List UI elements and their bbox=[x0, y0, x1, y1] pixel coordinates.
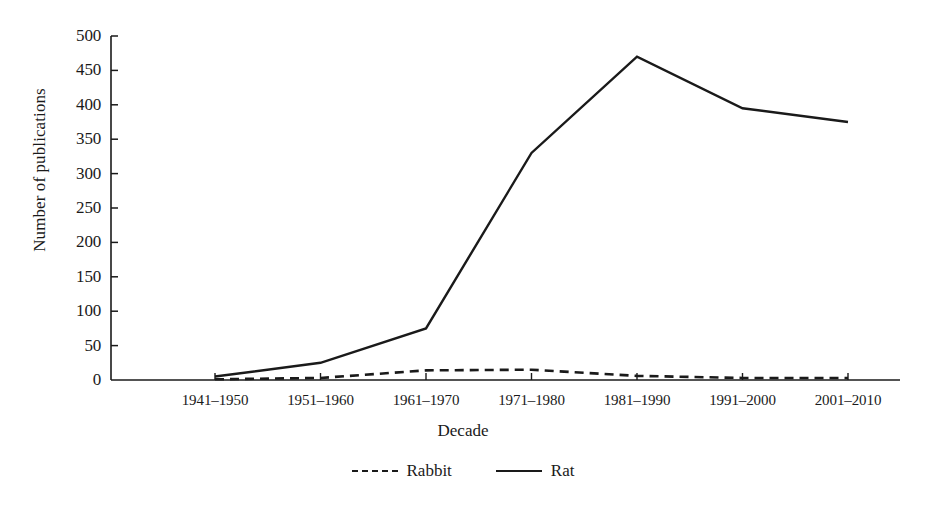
x-tick-label: 2001–2010 bbox=[815, 393, 882, 408]
x-tick-label: 1971–1980 bbox=[498, 393, 565, 408]
x-tick-label: 1941–1950 bbox=[182, 393, 249, 408]
legend-label: Rat bbox=[551, 462, 575, 479]
chart-figure: Number of publications 05010015020025030… bbox=[0, 0, 926, 507]
y-tick-label: 0 bbox=[55, 371, 101, 388]
y-tick-label: 400 bbox=[55, 96, 101, 113]
y-tick-label: 250 bbox=[55, 199, 101, 216]
x-tick-label: 1981–1990 bbox=[604, 393, 671, 408]
legend-item-rat[interactable]: Rat bbox=[496, 462, 575, 479]
y-tick-label: 300 bbox=[55, 165, 101, 182]
y-tick-label: 100 bbox=[55, 302, 101, 319]
series-line-rat bbox=[215, 57, 848, 377]
y-tick-label: 500 bbox=[55, 27, 101, 44]
legend-item-rabbit[interactable]: Rabbit bbox=[352, 462, 452, 479]
y-tick-label: 200 bbox=[55, 233, 101, 250]
y-tick-label: 150 bbox=[55, 268, 101, 285]
y-tick-label: 450 bbox=[55, 61, 101, 78]
x-tick-label: 1951–1960 bbox=[287, 393, 354, 408]
series-lines bbox=[215, 57, 848, 380]
x-tick-label: 1961–1970 bbox=[393, 393, 460, 408]
legend-swatch-rabbit bbox=[352, 470, 398, 472]
x-axis-title: Decade bbox=[0, 421, 926, 441]
y-axis-ticks bbox=[111, 36, 118, 346]
y-tick-label: 350 bbox=[55, 130, 101, 147]
legend-label: Rabbit bbox=[407, 462, 452, 479]
y-axis-title: Number of publications bbox=[30, 40, 50, 300]
axis-lines bbox=[111, 36, 900, 380]
legend-swatch-rat bbox=[496, 470, 542, 472]
chart-legend: RabbitRat bbox=[0, 462, 926, 479]
y-tick-label: 50 bbox=[55, 337, 101, 354]
x-tick-label: 1991–2000 bbox=[709, 393, 776, 408]
